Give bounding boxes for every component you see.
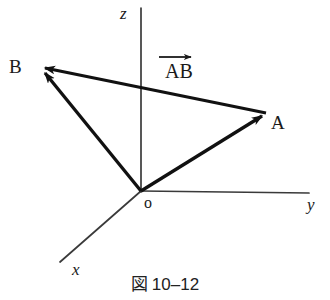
vector-ob bbox=[45, 73, 141, 191]
caption-mark-icon: 図 bbox=[131, 270, 148, 295]
point-label-b: B bbox=[9, 57, 22, 76]
axis-y-line bbox=[141, 191, 309, 193]
axis-x-line bbox=[60, 191, 141, 262]
point-label-a: A bbox=[271, 113, 285, 132]
axis-label-y: y bbox=[307, 196, 315, 213]
figure-container: z y x A B o AB 図10–12 bbox=[0, 0, 330, 300]
vector-oa bbox=[141, 116, 262, 191]
vector-diagram bbox=[0, 0, 330, 300]
vector-ab-text: AB bbox=[165, 61, 193, 81]
origin-label: o bbox=[144, 195, 152, 211]
figure-caption: 図10–12 bbox=[0, 270, 330, 295]
vector-ab bbox=[45, 68, 266, 113]
caption-number: 10–12 bbox=[152, 275, 199, 294]
vector-ab-label: AB bbox=[158, 52, 200, 81]
axis-label-z: z bbox=[120, 5, 127, 22]
